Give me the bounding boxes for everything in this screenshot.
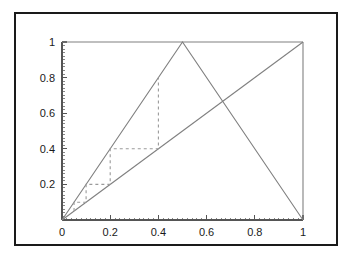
x-tick-label: 0 <box>59 227 65 238</box>
series-identity-line <box>62 42 303 220</box>
x-tick-label: 1 <box>300 227 306 238</box>
y-tick-label: 0.6 <box>40 108 55 119</box>
x-tick-label: 0.6 <box>199 227 214 238</box>
x-tick-label: 0.8 <box>247 227 262 238</box>
figure-root: 0.20.40.60.81 00.20.40.60.81 <box>0 0 353 258</box>
y-tick-label: 0.2 <box>40 179 55 190</box>
x-tick-label: 0.4 <box>151 227 166 238</box>
cobweb-group <box>74 78 158 212</box>
series-cobweb-staircase <box>74 78 158 212</box>
y-tick-label: 0.4 <box>40 143 55 154</box>
curves-group <box>62 42 303 220</box>
y-tick-label: 0.8 <box>40 72 55 83</box>
y-tick-label: 1 <box>49 37 55 48</box>
x-tick-label: 0.2 <box>103 227 118 238</box>
